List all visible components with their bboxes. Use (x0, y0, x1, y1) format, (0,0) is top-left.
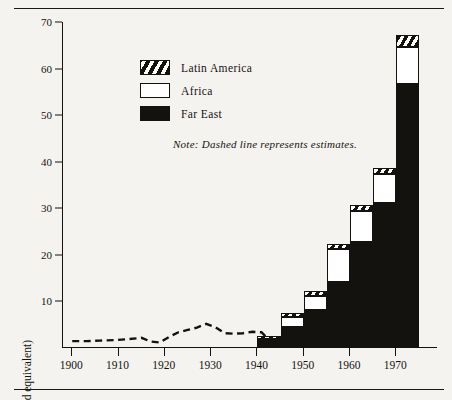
x-tick-mark-1940 (256, 348, 257, 356)
bottom-rule (14, 389, 444, 390)
y-tick-label-30: 30 (22, 203, 52, 214)
bar-1945 (257, 22, 280, 347)
x-tick-mark-1900 (71, 348, 72, 356)
y-tick-mark-40 (55, 161, 62, 162)
x-tick-label-1970: 1970 (384, 359, 407, 371)
x-tick-mark-1910 (118, 348, 119, 356)
x-axis: 19001910192019301940195019601970 (62, 348, 437, 378)
bar-1950 (281, 22, 304, 347)
bar-segment-far-east-1970 (373, 203, 396, 347)
y-tick-mark-30 (55, 208, 62, 209)
x-tick-mark-1930 (210, 348, 211, 356)
bar-segment-latin-america-1945 (257, 336, 280, 338)
y-tick-mark-20 (55, 254, 62, 255)
bar-segment-far-east-1950 (281, 327, 304, 347)
bar-segment-africa-1950 (281, 317, 304, 327)
bar-segment-latin-america-1965 (350, 205, 373, 211)
x-tick-label-1900: 1900 (60, 359, 83, 371)
y-tick-mark-10 (55, 301, 62, 302)
y-tick-label-40: 40 (22, 156, 52, 167)
bar-segment-far-east-1965 (350, 242, 373, 347)
x-tick-label-1940: 1940 (245, 359, 268, 371)
y-tick-mark-70 (55, 22, 62, 23)
x-tick-mark-1970 (395, 348, 396, 356)
estimate-line-path (72, 324, 280, 343)
bar-segment-far-east-1955 (304, 310, 327, 347)
y-tick-label-50: 50 (22, 110, 52, 121)
bar-segment-africa-1965 (350, 211, 373, 243)
bar-1955 (304, 22, 327, 347)
cut-off-title (100, 0, 360, 2)
bar-segment-latin-america-1955 (304, 291, 327, 296)
bar-1960 (327, 22, 350, 347)
bar-segment-far-east-1960 (327, 282, 350, 347)
bar-1975 (396, 22, 419, 347)
bar-segment-africa-1955 (304, 296, 327, 310)
bar-segment-latin-america-1975 (396, 35, 419, 47)
y-tick-label-70: 70 (22, 17, 52, 28)
bar-1965 (350, 22, 373, 347)
x-tick-label-1930: 1930 (199, 359, 222, 371)
x-tick-label-1910: 1910 (106, 359, 129, 371)
x-tick-mark-1950 (303, 348, 304, 356)
y-axis-title: Millions cubic meters (roundwood equival… (21, 340, 33, 400)
chart-figure: Millions cubic meters (roundwood equival… (0, 0, 452, 400)
x-tick-label-1960: 1960 (338, 359, 361, 371)
plot-inner: Latin America Africa Far East Note: Dash… (63, 22, 437, 347)
bar-segment-latin-america-1970 (373, 168, 396, 174)
x-tick-mark-1920 (164, 348, 165, 356)
y-tick-mark-60 (55, 68, 62, 69)
bar-segment-latin-america-1960 (327, 244, 350, 250)
bar-segment-far-east-1945 (257, 341, 280, 347)
x-tick-label-1950: 1950 (291, 359, 314, 371)
bar-segment-africa-1970 (373, 174, 396, 203)
bar-segment-latin-america-1950 (281, 313, 304, 318)
plot-area: Latin America Africa Far East Note: Dash… (62, 22, 437, 348)
bar-1970 (373, 22, 396, 347)
y-tick-mark-50 (55, 115, 62, 116)
x-tick-mark-1960 (349, 348, 350, 356)
y-tick-label-60: 60 (22, 63, 52, 74)
x-tick-label-1920: 1920 (152, 359, 175, 371)
y-tick-label-20: 20 (22, 249, 52, 260)
bar-segment-africa-1945 (257, 339, 280, 342)
top-rule (14, 8, 444, 9)
y-tick-label-10: 10 (22, 296, 52, 307)
bar-segment-africa-1975 (396, 47, 419, 84)
bar-segment-far-east-1975 (396, 84, 419, 347)
bar-segment-africa-1960 (327, 249, 350, 282)
